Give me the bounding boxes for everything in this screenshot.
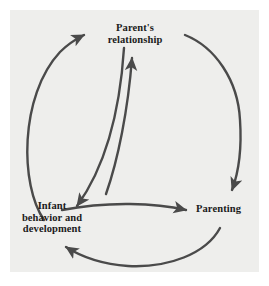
node-label-parenting: Parenting	[196, 203, 266, 215]
node-label-parents-relationship: Parent's relationship	[92, 22, 178, 45]
arrow-outer-infant-to-parents	[27, 35, 84, 220]
arrow-inner-parents-to-infant	[77, 48, 124, 206]
node-label-infant-behavior-and-development: Infant behavior and development	[6, 200, 98, 235]
arrow-inner-infant-to-parents	[106, 58, 132, 194]
figure-container: Parent's relationship Parenting Infant b…	[0, 0, 269, 286]
arrow-outer-parents-to-parenting	[185, 35, 241, 190]
